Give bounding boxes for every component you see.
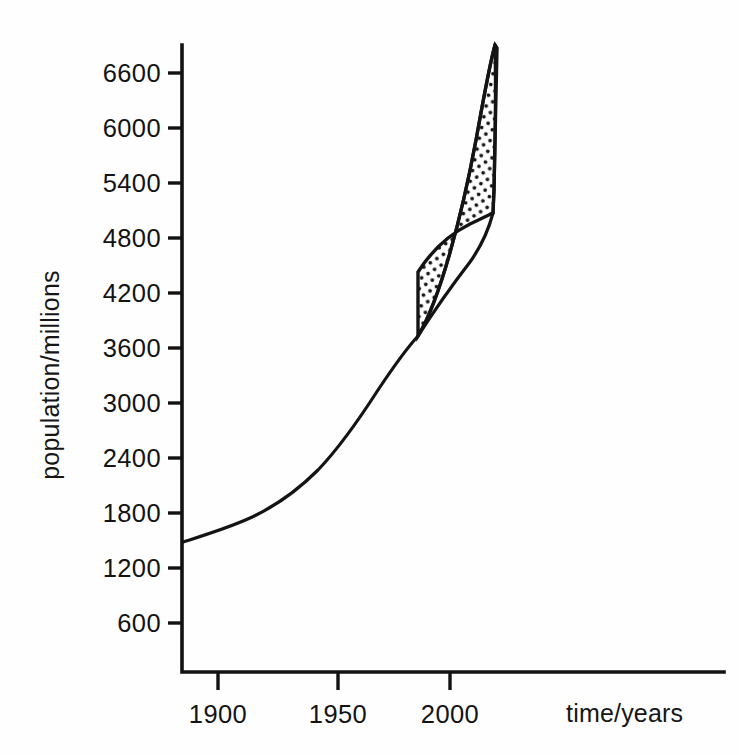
y-tick-label: 3000 (103, 389, 161, 417)
x-tick-label: 2000 (421, 700, 479, 728)
y-tick-label: 6600 (103, 59, 161, 87)
x-tick-label: 1900 (189, 700, 247, 728)
population-growth-chart: 6600 6000 5400 4800 4200 3600 3000 2400 … (0, 0, 739, 755)
y-tick-label: 4200 (103, 279, 161, 307)
y-tick-label: 5400 (103, 169, 161, 197)
y-tick-label: 4800 (103, 224, 161, 252)
x-axis-tick-labels: 1900 1950 2000 (189, 700, 479, 728)
y-tick-label: 1200 (103, 554, 161, 582)
y-axis-label: population/millions (36, 270, 64, 479)
y-tick-label: 600 (117, 609, 161, 637)
x-tick-label: 1950 (309, 700, 367, 728)
x-axis-label: time/years (566, 699, 683, 727)
y-tick-label: 2400 (103, 444, 161, 472)
y-tick-label: 6000 (103, 114, 161, 142)
y-tick-label: 3600 (103, 334, 161, 362)
y-tick-label: 1800 (103, 499, 161, 527)
